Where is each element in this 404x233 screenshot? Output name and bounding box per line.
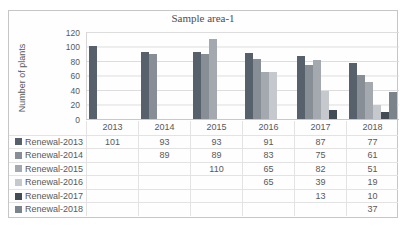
legend-swatch-renewal-2018 <box>15 206 22 213</box>
bar-slot <box>337 32 345 119</box>
legend-text: Renewal-2013 <box>25 136 83 149</box>
category-group-2016 <box>243 32 295 119</box>
table-value-renewal-2017-2015 <box>190 189 242 203</box>
bar-slot <box>193 32 201 119</box>
bar-slot <box>261 32 269 119</box>
bar-slot <box>157 32 165 119</box>
bar-slot <box>277 32 285 119</box>
bar-renewal-2018-2018 <box>389 92 397 119</box>
legend-swatch-renewal-2013 <box>15 138 22 145</box>
table-value-renewal-2015-2016: 65 <box>242 162 294 176</box>
bar-slot <box>297 32 305 119</box>
bar-slot <box>305 32 313 119</box>
table-corner-cell <box>9 121 86 135</box>
bar-slot <box>209 32 217 119</box>
bar-slot <box>129 32 137 119</box>
legend-label-renewal-2013: Renewal-2013 <box>9 135 86 149</box>
table-value-renewal-2013-2013: 101 <box>86 135 138 149</box>
data-table: 201320142015201620172018Renewal-20131019… <box>9 121 398 216</box>
table-value-renewal-2013-2018: 77 <box>346 135 398 149</box>
table-value-renewal-2016-2015 <box>190 175 242 189</box>
bar-slot <box>233 32 241 119</box>
category-group-2017 <box>295 32 347 119</box>
bar-slot <box>373 32 381 119</box>
table-value-renewal-2016-2017: 39 <box>294 175 346 189</box>
table-value-renewal-2015-2018: 51 <box>346 162 398 176</box>
bar-slot <box>253 32 261 119</box>
legend-swatch-renewal-2014 <box>15 152 22 159</box>
y-axis-ticks: 120100806040200 <box>47 32 83 119</box>
bar-slot <box>181 32 189 119</box>
bar-slot <box>349 32 357 119</box>
category-group-2014 <box>139 32 191 119</box>
table-value-renewal-2017-2018: 10 <box>346 189 398 203</box>
bar-slot <box>149 32 157 119</box>
x-axis-label-2016: 2016 <box>242 121 294 135</box>
bar-renewal-2014-2017 <box>305 65 313 119</box>
legend-text: Renewal-2015 <box>25 163 83 176</box>
table-value-renewal-2016-2013 <box>86 175 138 189</box>
table-value-renewal-2018-2018: 37 <box>346 202 398 216</box>
legend-swatch-renewal-2016 <box>15 179 22 186</box>
table-value-renewal-2014-2014: 89 <box>138 148 190 162</box>
bar-slot <box>97 32 105 119</box>
bar-renewal-2014-2018 <box>357 75 365 119</box>
bar-slot <box>245 32 253 119</box>
bar-slot <box>321 32 329 119</box>
legend-swatch-renewal-2017 <box>15 193 22 200</box>
table-value-renewal-2018-2013 <box>86 202 138 216</box>
legend-swatch-renewal-2015 <box>15 165 22 172</box>
table-value-renewal-2014-2015: 89 <box>190 148 242 162</box>
x-axis-label-2014: 2014 <box>138 121 190 135</box>
table-value-renewal-2017-2017: 13 <box>294 189 346 203</box>
bar-renewal-2015-2016 <box>261 72 269 119</box>
bar-renewal-2014-2015 <box>201 54 209 119</box>
legend-text: Renewal-2018 <box>25 203 83 216</box>
legend-text: Renewal-2017 <box>25 190 83 203</box>
bar-renewal-2015-2017 <box>313 60 321 119</box>
bar-slot <box>313 32 321 119</box>
bar-slot <box>225 32 233 119</box>
bar-slot <box>285 32 293 119</box>
table-value-renewal-2013-2014: 93 <box>138 135 190 149</box>
bar-renewal-2015-2015 <box>209 39 217 119</box>
table-value-renewal-2013-2015: 93 <box>190 135 242 149</box>
bar-slot <box>165 32 173 119</box>
legend-label-renewal-2016: Renewal-2016 <box>9 175 86 189</box>
bar-slot <box>201 32 209 119</box>
bar-slot <box>141 32 149 119</box>
y-tick-label: 80 <box>47 57 80 67</box>
bar-slot <box>217 32 225 119</box>
y-tick-label: 20 <box>47 100 80 110</box>
x-axis-label-2015: 2015 <box>190 121 242 135</box>
bar-renewal-2014-2016 <box>253 59 261 119</box>
bar-renewal-2013-2017 <box>297 56 305 119</box>
bar-slot <box>269 32 277 119</box>
bar-slot <box>105 32 113 119</box>
bar-renewal-2017-2017 <box>329 110 337 119</box>
table-value-renewal-2016-2016: 65 <box>242 175 294 189</box>
table-value-renewal-2017-2014 <box>138 189 190 203</box>
table-value-renewal-2014-2013 <box>86 148 138 162</box>
table-value-renewal-2016-2018: 19 <box>346 175 398 189</box>
table-value-renewal-2014-2017: 75 <box>294 148 346 162</box>
category-group-2013 <box>87 32 139 119</box>
chart-title: Sample area-1 <box>9 12 397 24</box>
x-axis-label-2017: 2017 <box>294 121 346 135</box>
bar-slot <box>381 32 389 119</box>
table-value-renewal-2013-2017: 87 <box>294 135 346 149</box>
bar-slot <box>365 32 373 119</box>
bar-renewal-2017-2018 <box>381 112 389 119</box>
legend-text: Renewal-2014 <box>25 149 83 162</box>
x-axis-label-2018: 2018 <box>346 121 398 135</box>
table-value-renewal-2015-2015: 110 <box>190 162 242 176</box>
x-axis-label-2013: 2013 <box>86 121 138 135</box>
bar-renewal-2016-2017 <box>321 91 329 119</box>
bar-renewal-2013-2013 <box>89 46 97 119</box>
bar-renewal-2013-2016 <box>245 53 253 119</box>
chart-figure: Sample area-1 Number of plants 120100806… <box>8 10 398 218</box>
bar-renewal-2013-2018 <box>349 63 357 119</box>
legend-text: Renewal-2016 <box>25 176 83 189</box>
bar-slot <box>89 32 97 119</box>
table-value-renewal-2015-2013 <box>86 162 138 176</box>
